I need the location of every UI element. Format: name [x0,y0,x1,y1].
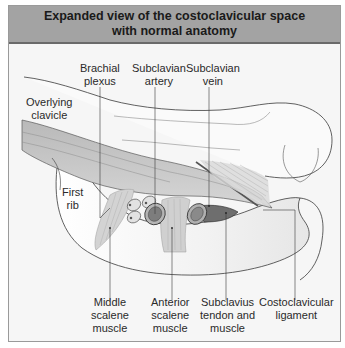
label-line: clavicle [26,109,72,122]
anterior-scalene-muscle [161,197,190,252]
label-subclavius-tendon-muscle: Subclavius tendon and muscle [200,296,255,335]
label-line: Overlying [26,96,72,109]
label-line: First [62,186,83,199]
label-line: Anterior [151,296,190,309]
label-line: Brachial [80,62,120,75]
label-line: scalene [151,309,190,322]
label-line: vein [186,75,240,88]
label-line: Subclavian [132,62,186,75]
label-middle-scalene-muscle: Middle scalene muscle [91,296,129,335]
label-line: plexus [80,75,120,88]
label-line: muscle [200,322,255,335]
label-overlying-clavicle: Overlying clavicle [26,96,72,122]
label-first-rib: First rib [62,186,83,212]
label-line: ligament [259,309,334,322]
label-line: tendon and [200,309,255,322]
label-costoclavicular-ligament: Costoclavicular ligament [259,296,334,322]
label-line: Middle [91,296,129,309]
label-brachial-plexus: Brachial plexus [80,62,120,88]
label-line: Subclavius [200,296,255,309]
label-line: rib [62,199,83,212]
label-line: Subclavian [186,62,240,75]
label-subclavian-artery: Subclavian artery [132,62,186,88]
label-line: muscle [91,322,129,335]
label-line: artery [132,75,186,88]
label-line: muscle [151,322,190,335]
label-line: Costoclavicular [259,296,334,309]
label-anterior-scalene-muscle: Anterior scalene muscle [151,296,190,335]
label-line: scalene [91,309,129,322]
label-subclavian-vein: Subclavian vein [186,62,240,88]
